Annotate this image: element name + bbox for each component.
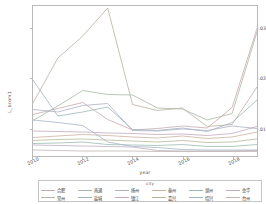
- legend-item-label: 台州: [242, 195, 250, 201]
- x-tick-label: 2018: [227, 156, 240, 166]
- legend-item-label: 盐城: [94, 195, 102, 201]
- legend-line-swatch: [226, 197, 240, 198]
- legend-item[interactable]: 盐城: [77, 195, 114, 201]
- legend-item-label: 湖州: [205, 187, 213, 193]
- plot-area: [32, 5, 258, 157]
- x-tick-label: 2016: [177, 156, 190, 166]
- legend-title: city: [144, 181, 156, 186]
- series-line: [33, 139, 257, 143]
- legend-item[interactable]: 合肥: [40, 187, 77, 193]
- legend-item[interactable]: 扬州: [114, 187, 151, 193]
- legend-item-label: 合肥: [57, 187, 65, 193]
- legend-line-swatch: [189, 190, 203, 191]
- legend-item[interactable]: 常州: [40, 195, 77, 201]
- x-tick-mark: [82, 157, 83, 160]
- legend-item[interactable]: 绍兴: [188, 195, 225, 201]
- series-line: [33, 132, 257, 139]
- legend-item[interactable]: 台州: [225, 195, 262, 201]
- legend-item-label: 泰州: [168, 187, 176, 193]
- legend-line-swatch: [226, 190, 240, 191]
- legend-item[interactable]: 嘉兴: [151, 195, 188, 201]
- legend-item-label: 南通: [94, 187, 102, 193]
- legend-item-label: 扬州: [131, 187, 139, 193]
- line-chart-figure: L_bcom1 0.010.020.03 2010201220142016201…: [0, 0, 266, 204]
- x-tick-mark: [233, 157, 234, 160]
- legend-line-swatch: [41, 190, 55, 191]
- legend-item-label: 镇江: [131, 195, 139, 201]
- legend-item[interactable]: 南通: [77, 187, 114, 193]
- x-axis-label: year: [139, 170, 150, 175]
- x-tick-mark: [32, 157, 33, 160]
- legend-line-swatch: [115, 197, 129, 198]
- legend-line-swatch: [78, 197, 92, 198]
- legend-item[interactable]: 湖州: [188, 187, 225, 193]
- legend-line-swatch: [41, 197, 55, 198]
- legend-item[interactable]: 镇江: [114, 195, 151, 201]
- series-line: [33, 8, 257, 127]
- series-lines: [33, 6, 257, 156]
- legend-item-label: 嘉兴: [168, 195, 176, 201]
- legend-line-swatch: [189, 197, 203, 198]
- legend-line-swatch: [152, 190, 166, 191]
- legend-item-label: 金华: [242, 187, 250, 193]
- x-tick-label: 2014: [127, 156, 140, 166]
- x-tick-label: 2012: [77, 156, 90, 166]
- legend-item[interactable]: 泰州: [151, 187, 188, 193]
- legend-items: 合肥南通扬州泰州湖州金华常州盐城镇江嘉兴绍兴台州: [40, 187, 262, 202]
- y-axis-label: L_bcom1: [7, 91, 12, 112]
- legend-line-swatch: [152, 197, 166, 198]
- legend-line-swatch: [78, 190, 92, 191]
- x-tick-mark: [132, 157, 133, 160]
- x-tick-label: 2010: [27, 156, 40, 166]
- legend-item-label: 常州: [57, 195, 65, 201]
- legend-item-label: 绍兴: [205, 195, 213, 201]
- legend-item[interactable]: 金华: [225, 187, 262, 193]
- legend-box: city 合肥南通扬州泰州湖州金华常州盐城镇江嘉兴绍兴台州: [38, 180, 262, 202]
- legend-line-swatch: [115, 190, 129, 191]
- x-tick-mark: [183, 157, 184, 160]
